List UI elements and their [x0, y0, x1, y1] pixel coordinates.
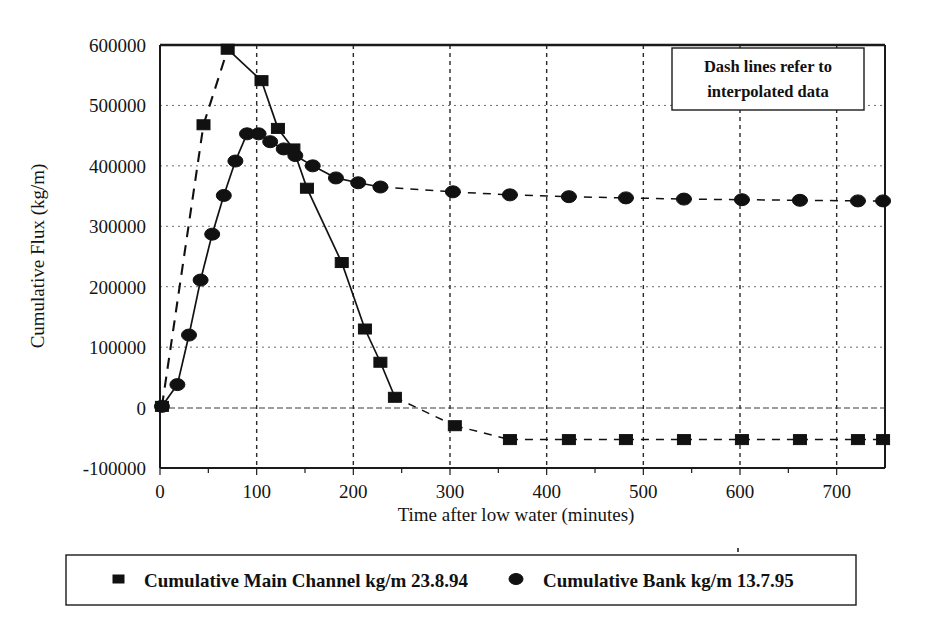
series-segment — [455, 426, 510, 440]
data-point-circle — [228, 155, 243, 167]
data-point-square — [388, 392, 401, 402]
y-tick-label: 600000 — [89, 35, 146, 56]
y-tick-label: 300000 — [89, 216, 146, 237]
data-point-square — [221, 44, 234, 54]
series-segment — [510, 195, 569, 197]
x-tick-label: 600 — [726, 481, 755, 502]
data-point-circle — [193, 274, 208, 286]
data-point-circle — [182, 329, 197, 341]
series-segment — [626, 198, 684, 199]
data-point-circle — [305, 160, 320, 172]
data-point-circle — [792, 194, 807, 206]
series-segment — [800, 200, 858, 201]
series-segment — [380, 187, 453, 192]
x-axis-tick-labels: 0100200300400500600700 — [155, 481, 851, 502]
data-point-square — [735, 435, 748, 445]
data-point-square — [374, 357, 387, 367]
annotation-line-1: Dash lines refer to — [704, 57, 832, 76]
data-point-square — [877, 435, 890, 445]
data-point-square — [271, 123, 284, 133]
series-segment — [569, 197, 626, 198]
series-segment — [189, 280, 201, 335]
data-point-circle — [170, 379, 185, 391]
data-point-circle — [502, 189, 517, 201]
data-point-square — [503, 435, 516, 445]
series-segment — [262, 81, 278, 129]
legend-item-bank[interactable]: Cumulative Bank kg/m 13.7.95 — [509, 570, 794, 591]
data-point-square — [448, 421, 461, 431]
series-segment — [307, 188, 342, 262]
data-point-circle — [618, 192, 633, 204]
legend-circle-marker-icon — [509, 574, 523, 585]
data-point-square — [255, 76, 268, 86]
x-tick-label: 0 — [155, 481, 165, 502]
data-point-square — [300, 183, 313, 193]
annotation-line-2: interpolated data — [707, 82, 828, 101]
x-axis-tick-marks — [160, 468, 837, 475]
series-segment — [177, 335, 189, 385]
x-axis-title: Time after low water (minutes) — [398, 504, 635, 526]
y-tick-label: 0 — [137, 398, 147, 419]
data-point-circle — [205, 228, 220, 240]
x-tick-label: 700 — [822, 481, 851, 502]
chart-legend: Cumulative Main Channel kg/m 23.8.94 Cum… — [66, 548, 856, 605]
series-segment — [204, 49, 228, 125]
annotation-box: Dash lines refer to interpolated data — [672, 48, 864, 110]
series-segment — [201, 234, 213, 280]
data-point-square — [851, 435, 864, 445]
data-point-square — [335, 258, 348, 268]
series-bank — [154, 128, 890, 413]
data-point-circle — [263, 136, 278, 148]
data-point-circle — [351, 177, 366, 189]
x-tick-label: 300 — [436, 481, 465, 502]
data-point-square — [358, 324, 371, 334]
data-point-circle — [154, 400, 169, 412]
y-axis-title: Cumulative Flux (kg/m) — [27, 164, 49, 349]
x-tick-label: 500 — [629, 481, 658, 502]
data-point-square — [562, 435, 575, 445]
data-point-circle — [445, 186, 460, 198]
data-point-circle — [373, 181, 388, 193]
data-point-circle — [676, 193, 691, 205]
chart-figure: 0100200300400500600700 -1000000100000200… — [0, 0, 928, 635]
data-point-square — [677, 435, 690, 445]
legend-square-marker-icon — [113, 575, 124, 583]
data-point-circle — [734, 194, 749, 206]
legend-label-main-channel: Cumulative Main Channel kg/m 23.8.94 — [144, 570, 469, 591]
x-tick-label: 400 — [532, 481, 561, 502]
series-segment — [742, 200, 800, 201]
y-tick-label: 200000 — [89, 277, 146, 298]
x-tick-label: 100 — [242, 481, 271, 502]
data-point-circle — [561, 191, 576, 203]
y-tick-label: 500000 — [89, 95, 146, 116]
data-point-square — [619, 435, 632, 445]
data-point-circle — [216, 189, 231, 201]
cumulative-flux-chart: 0100200300400500600700 -1000000100000200… — [0, 0, 928, 635]
series-segment — [453, 192, 510, 195]
data-point-circle — [850, 195, 865, 207]
data-point-circle — [288, 150, 303, 162]
legend-label-bank: Cumulative Bank kg/m 13.7.95 — [543, 570, 794, 591]
series-segment — [395, 397, 455, 425]
y-tick-label: 400000 — [89, 156, 146, 177]
y-axis-tick-labels: -100000010000020000030000040000050000060… — [83, 35, 146, 479]
y-tick-label: 100000 — [89, 337, 146, 358]
data-point-square — [197, 120, 210, 130]
series-segment — [684, 199, 742, 200]
y-tick-label: -100000 — [83, 458, 146, 479]
data-point-circle — [328, 172, 343, 184]
x-tick-label: 200 — [339, 481, 368, 502]
data-point-square — [793, 435, 806, 445]
legend-item-main-channel[interactable]: Cumulative Main Channel kg/m 23.8.94 — [113, 570, 469, 591]
data-point-circle — [876, 195, 891, 207]
